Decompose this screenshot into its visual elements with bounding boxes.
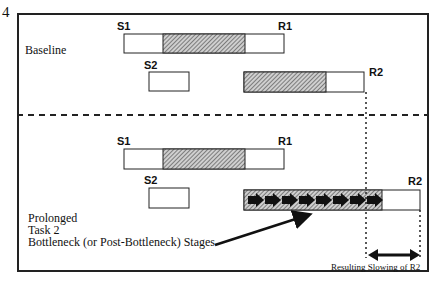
- prolonged-task2-stimulus-box: [149, 188, 189, 208]
- baseline-r1-label: R1: [278, 20, 292, 32]
- baseline-s2-label: S2: [144, 59, 157, 71]
- prolonged-task1-bar: [124, 149, 284, 169]
- baseline-r2-label: R2: [369, 66, 383, 78]
- prolonged-s1-label: S1: [117, 135, 130, 147]
- prolonged-label-line-3: Bottleneck (or Post-Bottleneck) Stages: [28, 236, 215, 248]
- baseline-task2-stimulus-box: [149, 72, 189, 91]
- slowing-double-arrow-icon: [368, 249, 420, 261]
- baseline-label: Baseline: [25, 43, 66, 58]
- prolonged-task2-bar: [244, 190, 420, 210]
- slowing-annotation: Resulting Slowing of R2: [331, 262, 420, 272]
- prolonged-s2-label: S2: [144, 174, 157, 186]
- baseline-s1-label: S1: [117, 20, 130, 32]
- prolonged-r2-label: R2: [408, 175, 422, 187]
- baseline-task2-bar: [244, 72, 364, 92]
- baseline-task1-bar: [124, 34, 284, 53]
- prolonged-r1-label: R1: [278, 135, 292, 147]
- pointer-arrow-icon: [215, 215, 308, 245]
- prolonged-label: Prolonged Task 2 Bottleneck (or Post-Bot…: [28, 212, 215, 248]
